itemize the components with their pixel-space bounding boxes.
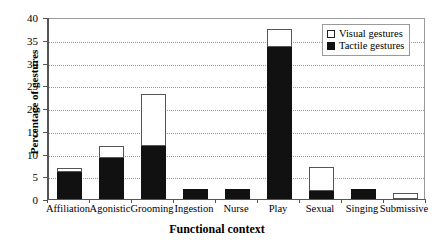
bar-group (183, 17, 208, 199)
x-tick-label: Affiliation (46, 203, 90, 215)
x-tick-mark (299, 199, 300, 203)
bar-segment-tactile (183, 189, 208, 199)
legend: Visual gestures Tactile gestures (322, 24, 410, 56)
legend-label-tactile: Tactile gestures (339, 40, 404, 52)
x-tick-mark (257, 199, 258, 203)
y-tick-mark (43, 109, 47, 110)
x-tick-mark (341, 199, 342, 203)
bar-segment-visual (57, 168, 82, 172)
y-tick-mark (43, 86, 47, 87)
y-tick-label: 40 (2, 13, 38, 24)
y-tick-mark (43, 177, 47, 178)
legend-item-tactile: Tactile gestures (327, 40, 404, 52)
bar-group (99, 17, 124, 199)
x-tick-label: Agonistic (90, 203, 131, 215)
bar-segment-visual (141, 94, 166, 145)
y-tick-mark (43, 64, 47, 65)
bar-segment-tactile (57, 172, 82, 199)
y-tick-label: 25 (2, 81, 38, 92)
bar-segment-tactile (351, 189, 376, 199)
x-axis-title: Functional context (0, 222, 434, 237)
filled-square-icon (327, 42, 335, 50)
x-tick-label: Singing (346, 203, 379, 215)
y-tick-label: 30 (2, 58, 38, 69)
x-tick-mark (89, 199, 90, 203)
y-tick-label: 15 (2, 126, 38, 137)
bar-group (267, 17, 292, 199)
bar-segment-visual (309, 167, 334, 191)
legend-label-visual: Visual gestures (339, 28, 403, 40)
x-tick-mark (425, 199, 426, 203)
bar-segment-tactile (99, 158, 124, 199)
y-tick-label: 35 (2, 35, 38, 46)
y-tick-label: 10 (2, 149, 38, 160)
y-tick-mark (43, 155, 47, 156)
bar-segment-tactile (225, 189, 250, 199)
bar-group (141, 17, 166, 199)
x-tick-mark (215, 199, 216, 203)
y-tick-label: 0 (2, 195, 38, 206)
bar-segment-tactile (141, 146, 166, 199)
bar-segment-visual (267, 29, 292, 46)
x-tick-mark (131, 199, 132, 203)
x-tick-mark (47, 199, 48, 203)
x-tick-mark (173, 199, 174, 203)
bar-segment-tactile (267, 47, 292, 199)
y-tick-label: 20 (2, 104, 38, 115)
x-tick-label: Submissive (380, 203, 428, 215)
x-tick-label: Ingestion (174, 203, 213, 215)
bar-segment-visual (99, 146, 124, 158)
bar-group (225, 17, 250, 199)
x-tick-label: Play (269, 203, 288, 215)
legend-item-visual: Visual gestures (327, 28, 404, 40)
x-tick-label: Sexual (306, 203, 335, 215)
bar-segment-tactile (309, 191, 334, 199)
y-tick-mark (43, 18, 47, 19)
open-square-icon (327, 30, 335, 38)
x-axis-line (47, 199, 425, 200)
x-tick-label: Grooming (130, 203, 173, 215)
y-tick-mark (43, 41, 47, 42)
y-tick-label: 5 (2, 172, 38, 183)
x-tick-mark (383, 199, 384, 203)
bar-group (57, 17, 82, 199)
y-axis-line (47, 18, 49, 200)
y-tick-mark (43, 132, 47, 133)
x-tick-label: Nurse (223, 203, 248, 215)
bar-chart: Percentage of gestures 0510152025303540 … (0, 0, 434, 249)
